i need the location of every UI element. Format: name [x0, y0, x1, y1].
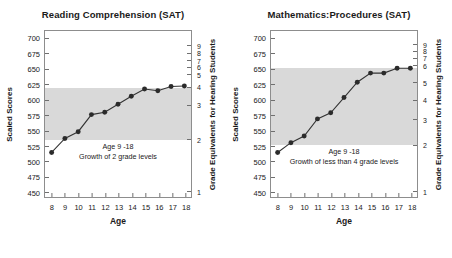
y2-axis-tick-mark — [187, 191, 191, 192]
x-axis-tick-label: 10 — [300, 197, 308, 212]
y-axis-tick-mark — [271, 131, 275, 132]
series-polyline — [278, 68, 411, 152]
x-axis-tick-mark — [145, 193, 146, 197]
y2-axis-tick-mark — [413, 191, 417, 192]
y2-axis-label-grade-equivalents: Grade Equivalents for Hearing Students — [432, 22, 446, 206]
x-axis-tick-label: 17 — [169, 197, 177, 212]
x-axis-tick-mark — [119, 193, 120, 197]
y-axis-tick-mark — [45, 100, 49, 101]
y-axis-tick-label: 500 — [27, 157, 45, 166]
x-axis-tick-label: 13 — [115, 197, 123, 212]
y-axis-tick-mark — [271, 115, 275, 116]
data-point-marker — [102, 110, 107, 115]
y-axis-tick-label: 650 — [253, 65, 271, 74]
x-axis-tick-label: 8 — [50, 197, 54, 212]
y2-axis-label-text: Grade Equivalents for Hearing Students — [209, 38, 218, 190]
x-axis-label-age: Age — [270, 216, 418, 226]
y-axis-tick-label: 450 — [253, 188, 271, 197]
x-axis-tick-mark — [412, 193, 413, 197]
y-axis-tick-mark — [271, 192, 275, 193]
x-axis-label-age: Age — [44, 216, 192, 226]
y2-axis-tick-mark — [187, 53, 191, 54]
y2-axis-tick-mark — [413, 100, 417, 101]
data-point-marker — [275, 150, 280, 155]
data-series-line — [271, 31, 417, 197]
y2-axis-tick-label: 8 — [417, 48, 427, 55]
y-axis-tick-mark — [271, 146, 275, 147]
x-axis-tick-label: 14 — [128, 197, 136, 212]
data-point-marker — [89, 112, 94, 117]
y-axis-tick-mark — [271, 84, 275, 85]
data-point-marker — [155, 88, 160, 93]
y-axis-tick-label: 675 — [27, 49, 45, 58]
y2-axis-tick-mark — [413, 65, 417, 66]
x-axis-tick-mark — [186, 193, 187, 197]
data-point-marker — [169, 84, 174, 89]
y-axis-label-text: Scaled Scores — [231, 87, 240, 142]
x-axis-tick-label: 9 — [63, 197, 67, 212]
y-axis-tick-label: 575 — [27, 111, 45, 120]
x-axis-tick-label: 17 — [395, 197, 403, 212]
y-axis-tick-mark — [271, 38, 275, 39]
plot-area: Age 9 -18 Growth of less than 4 grade le… — [270, 30, 418, 198]
x-axis-tick-label: 12 — [327, 197, 335, 212]
y-axis-tick-mark — [271, 177, 275, 178]
y-axis-label-text: Scaled Scores — [5, 87, 14, 142]
y-axis-tick-label: 675 — [253, 49, 271, 58]
x-axis-tick-label: 11 — [88, 197, 96, 212]
x-axis-tick-label: 12 — [101, 197, 109, 212]
y-axis-tick-mark — [271, 53, 275, 54]
y2-axis-tick-label: 8 — [191, 50, 201, 57]
plot-area: Age 9 -18 Growth of 2 grade levels 45047… — [44, 30, 192, 198]
y2-axis-tick-mark — [187, 87, 191, 88]
y2-axis-label-text: Grade Equivalents for Hearing Students — [435, 38, 444, 190]
data-point-marker — [142, 87, 147, 92]
x-axis-tick-mark — [51, 193, 52, 197]
x-axis-tick-label: 16 — [155, 197, 163, 212]
y-axis-tick-mark — [45, 115, 49, 116]
data-point-marker — [395, 66, 400, 71]
x-axis-tick-mark — [105, 193, 106, 197]
data-point-marker — [368, 71, 373, 76]
y2-axis-tick-mark — [413, 51, 417, 52]
x-axis-tick-mark — [318, 193, 319, 197]
x-axis-tick-mark — [331, 193, 332, 197]
y-axis-tick-mark — [45, 131, 49, 132]
y2-axis-tick-mark — [187, 139, 191, 140]
x-axis-tick-mark — [78, 193, 79, 197]
y2-axis-tick-label: 1 — [417, 188, 427, 195]
x-axis-tick-mark — [291, 193, 292, 197]
y-axis-tick-label: 600 — [253, 96, 271, 105]
y2-axis-tick-label: 9 — [417, 41, 427, 48]
y2-axis-tick-label: 4 — [191, 84, 201, 91]
y2-axis-tick-mark — [413, 145, 417, 146]
y2-axis-tick-mark — [413, 82, 417, 83]
x-axis-tick-label: 14 — [354, 197, 362, 212]
y-axis-tick-mark — [271, 100, 275, 101]
y-axis-label-scaled-scores: Scaled Scores — [2, 30, 16, 198]
data-point-marker — [315, 116, 320, 121]
y-axis-tick-mark — [45, 161, 49, 162]
y-axis-tick-label: 500 — [253, 157, 271, 166]
data-point-marker — [116, 102, 121, 107]
y2-axis-tick-label: 7 — [417, 55, 427, 62]
y-axis-tick-label: 550 — [253, 127, 271, 136]
y-axis-tick-mark — [45, 177, 49, 178]
y-axis-tick-label: 700 — [27, 34, 45, 43]
y2-axis-tick-label: 6 — [191, 64, 201, 71]
x-axis-tick-label: 9 — [289, 197, 293, 212]
y2-axis-tick-label: 4 — [417, 97, 427, 104]
y-axis-tick-label: 575 — [253, 111, 271, 120]
y2-axis-tick-mark — [187, 74, 191, 75]
x-axis-tick-label: 8 — [276, 197, 280, 212]
y-axis-tick-label: 625 — [27, 80, 45, 89]
x-axis-tick-label: 18 — [408, 197, 416, 212]
y2-axis-tick-mark — [413, 44, 417, 45]
data-point-marker — [381, 71, 386, 76]
chart-panel-reading-comprehension: Reading Comprehension (SAT) Scaled Score… — [0, 0, 226, 258]
two-panel-chart-figure: Reading Comprehension (SAT) Scaled Score… — [0, 0, 452, 258]
y-axis-tick-label: 600 — [27, 96, 45, 105]
y-axis-label-scaled-scores: Scaled Scores — [228, 30, 242, 198]
data-point-marker — [288, 140, 293, 145]
y-axis-tick-label: 550 — [27, 127, 45, 136]
